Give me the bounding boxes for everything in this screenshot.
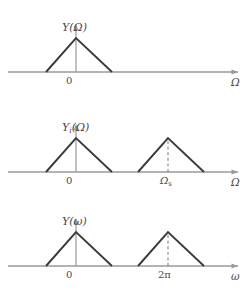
x-axis-label-bottom: ω xyxy=(231,271,240,282)
spectrum-triangle-replica xyxy=(138,138,204,172)
replica-tick-label-middle: Ωs xyxy=(160,176,172,188)
spectrum-triangle-baseband xyxy=(46,232,112,266)
panel-bottom: Y(ω) 0 2π ω xyxy=(0,194,251,292)
panel-middle-plot xyxy=(0,100,251,192)
horizontal-axis-arrowhead xyxy=(232,264,239,269)
replica-tick-label-bottom: 2π xyxy=(158,270,171,280)
panel-top: Y(Ω) 0 Ω xyxy=(0,0,251,95)
origin-tick-label-bottom: 0 xyxy=(66,270,72,280)
panel-bottom-plot xyxy=(0,194,251,292)
curve-label-bottom: Y(ω) xyxy=(62,216,87,227)
horizontal-axis-arrowhead xyxy=(232,170,239,175)
curve-label-top: Y(Ω) xyxy=(62,22,87,33)
replica-tick-subscript: s xyxy=(168,180,172,188)
spectrum-triangle-baseband xyxy=(46,138,112,172)
spectrum-triangle-replica xyxy=(138,232,204,266)
curve-label-middle: Yi(Ω) xyxy=(62,122,89,135)
panel-top-plot xyxy=(0,0,251,95)
curve-label-middle-tail: (Ω) xyxy=(72,121,90,134)
spectra-figure: Y(Ω) 0 Ω Yi(Ω) 0 Ωs Ω xyxy=(0,0,251,292)
panel-middle: Yi(Ω) 0 Ωs Ω xyxy=(0,100,251,192)
origin-tick-label-top: 0 xyxy=(66,76,72,86)
x-axis-label-middle: Ω xyxy=(231,177,240,188)
x-axis-label-top: Ω xyxy=(231,77,240,88)
origin-tick-label-middle: 0 xyxy=(66,176,72,186)
spectrum-triangle-baseband xyxy=(46,38,112,72)
horizontal-axis-arrowhead xyxy=(232,70,239,75)
